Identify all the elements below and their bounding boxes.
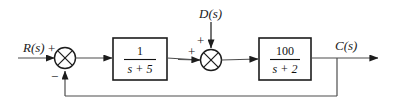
summer-1-plus-sign: + [48, 41, 55, 56]
control-system-diagram: 1 s + 5 100 s + 2 R(s) D(s) C(s) + − + [0, 0, 396, 108]
block-1-denominator: s + 5 [128, 62, 153, 76]
summer-2-plus-sign-left: + [188, 44, 195, 59]
block-diagram-canvas: 1 s + 5 100 s + 2 R(s) D(s) C(s) + − + [0, 0, 396, 108]
reference-input-label: R(s) [22, 40, 45, 55]
output-label: C(s) [335, 38, 357, 53]
block-2-numerator: 100 [276, 44, 294, 58]
summer-2-output-wire [222, 59, 259, 60]
block-2-denominator: s + 2 [273, 62, 298, 76]
summer-2-plus-sign-top: + [197, 33, 204, 48]
disturbance-input-label: D(s) [198, 6, 222, 21]
block-1-numerator: 1 [137, 44, 143, 58]
summer-1-minus-sign: − [51, 69, 58, 84]
block-1-output-arrow [178, 60, 200, 61]
